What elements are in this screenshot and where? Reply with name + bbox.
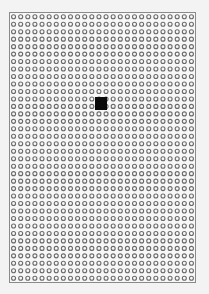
hole-grid xyxy=(10,13,195,282)
black-square-marker xyxy=(95,97,107,110)
perforated-board xyxy=(9,12,196,283)
